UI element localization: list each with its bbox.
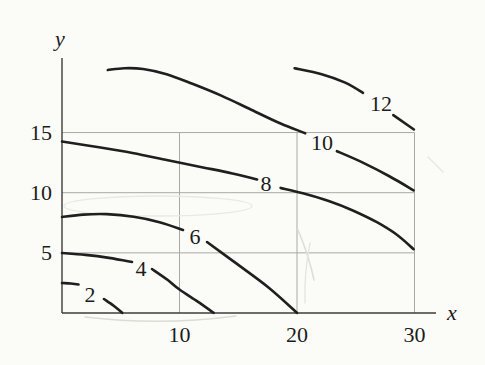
- contour-curve-4-segment-1: [152, 269, 214, 313]
- scan-artifact: [428, 157, 443, 172]
- contour-label-10: 10: [311, 130, 333, 155]
- contour-figure: 1020305101524681012 x y: [0, 0, 485, 365]
- x-axis-label: x: [446, 300, 457, 325]
- contour-curve-10-segment-0: [108, 68, 305, 133]
- x-tick-label-10: 10: [169, 322, 191, 347]
- scan-artifact-layer: [64, 157, 443, 321]
- y-tick-label-10: 10: [30, 180, 52, 205]
- contour-curve-12-segment-1: [393, 115, 414, 129]
- contour-curve-8-segment-0: [62, 142, 257, 180]
- contour-label-2: 2: [84, 282, 95, 307]
- contour-curve-12-segment-0: [295, 68, 363, 93]
- x-tick-label-30: 30: [404, 322, 426, 347]
- grid-layer: [62, 133, 415, 313]
- contour-label-12: 12: [370, 91, 392, 116]
- contour-label-8: 8: [260, 171, 271, 196]
- contour-layer: [62, 68, 414, 313]
- contour-label-6: 6: [190, 224, 201, 249]
- contour-curve-10-segment-1: [337, 151, 414, 190]
- y-tick-label-5: 5: [41, 240, 52, 265]
- contour-label-4: 4: [135, 256, 146, 281]
- y-tick-label-15: 15: [30, 120, 52, 145]
- contour-plot-canvas: 1020305101524681012 x y: [0, 0, 485, 365]
- x-tick-label-20: 20: [286, 322, 308, 347]
- y-axis-label: y: [53, 26, 65, 51]
- contour-curve-2-segment-1: [104, 299, 122, 313]
- contour-curve-4-segment-0: [62, 253, 132, 262]
- contour-curve-2-segment-0: [62, 283, 79, 285]
- contour-curve-8-segment-1: [281, 188, 414, 249]
- label-layer: 1020305101524681012: [30, 91, 426, 347]
- scan-artifact: [85, 316, 236, 321]
